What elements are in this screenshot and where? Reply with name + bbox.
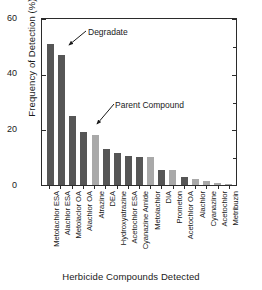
bar-slot [90, 19, 101, 185]
bar-slot [212, 19, 223, 185]
x-label-slot: Acetochlor ESA [123, 191, 134, 261]
x-tick-slot [55, 186, 66, 190]
x-tick-slot [190, 186, 201, 190]
x-label-slot: Cyanazine [201, 191, 212, 261]
x-tick-mark [229, 186, 230, 189]
x-label-slot: Cyanazine Amide [134, 191, 145, 261]
annotation-degradate-label: Degradate [88, 27, 128, 37]
bar-acetochlor-esa [125, 156, 132, 185]
bar-slot [101, 19, 112, 185]
bar-slot [201, 19, 212, 185]
x-label-slot: Hydroxyatrazine [111, 191, 122, 261]
bar-metolachlor-esa [47, 44, 54, 185]
bar-alachlor-oa [80, 132, 87, 185]
bar-cyanazine-amide [136, 157, 143, 185]
x-tick-slot [201, 186, 212, 190]
x-tick-mark [195, 186, 196, 189]
x-tick-mark [72, 186, 73, 189]
bar-acetochlor-oa [181, 177, 188, 185]
bar-metribuzin [225, 184, 232, 185]
x-tick-slot [44, 186, 55, 190]
x-label-slot: DIA [156, 191, 167, 261]
x-tick-mark [60, 186, 61, 189]
x-label-slot: Metribuzin [224, 191, 235, 261]
x-tick-slot [213, 186, 224, 190]
bar-slot [67, 19, 78, 185]
x-tick-mark [206, 186, 207, 189]
x-tick-mark [105, 186, 106, 189]
x-label-slot: Alachlor OA [78, 191, 89, 261]
x-label-slot: Acetochlor OA [179, 191, 190, 261]
x-tick-slot [145, 186, 156, 190]
bar-slot [190, 19, 201, 185]
bar-metolachlor [147, 157, 154, 185]
x-label-slot: Acetochlor [213, 191, 224, 261]
x-label-slot: Metolaclor OA [66, 191, 77, 261]
x-label-slot: Alachlor ESA [55, 191, 66, 261]
y-tick-label-20: 20 [0, 125, 17, 134]
bar-prometon [169, 170, 176, 185]
x-label-slot: Metolachlor [145, 191, 156, 261]
x-tick-slot [168, 186, 179, 190]
x-tick-slot [156, 186, 167, 190]
x-tick-slot [89, 186, 100, 190]
x-tick-mark [139, 186, 140, 189]
x-tick-mark [161, 186, 162, 189]
x-tick-mark [173, 186, 174, 189]
x-tick-slot [100, 186, 111, 190]
x-tick-row [41, 186, 237, 190]
bar-hydroxyatrazine [114, 153, 121, 185]
x-tick-slot [66, 186, 77, 190]
bar-slot [223, 19, 234, 185]
y-tick-label-0: 0 [0, 181, 17, 190]
bar-alachlor-esa [58, 55, 65, 185]
y-tick-label-60: 60 [0, 14, 17, 23]
bar-slot [56, 19, 67, 185]
x-label-slot: Prometon [168, 191, 179, 261]
x-tick-mark [49, 186, 50, 189]
x-label-slot: Alachlor [190, 191, 201, 261]
x-tick-mark [94, 186, 95, 189]
x-tick-mark [83, 186, 84, 189]
y-tick-label-40: 40 [0, 69, 17, 78]
x-axis-label: Metribuzin [232, 191, 240, 226]
bar-acetochlor [214, 183, 221, 185]
chart-figure: Frequency of Detection (%) 60 40 20 0 Me… [0, 0, 262, 290]
bar-cyanazine [203, 181, 210, 185]
x-tick-slot [179, 186, 190, 190]
x-label-slot: Metolachlor ESA [44, 191, 55, 261]
bar-atrazine [92, 135, 99, 185]
bar-dea [103, 149, 110, 185]
y-axis-title: Frequency of Detection (%) [26, 0, 37, 133]
x-tick-slot [123, 186, 134, 190]
x-tick-mark [150, 186, 151, 189]
x-tick-slot [111, 186, 122, 190]
x-tick-mark [184, 186, 185, 189]
x-axis-title: Herbicide Compounds Detected [0, 271, 262, 282]
x-tick-slot [134, 186, 145, 190]
bar-dia [158, 170, 165, 185]
x-label-slot: DEA [100, 191, 111, 261]
x-tick-slot [78, 186, 89, 190]
x-tick-mark [128, 186, 129, 189]
x-axis-labels: Metolachlor ESAAlachlor ESAMetolaclor OA… [41, 191, 237, 261]
x-tick-slot [224, 186, 235, 190]
annotation-parent-compound-label: Parent Compound [115, 100, 184, 110]
bar-slot [78, 19, 89, 185]
bar-alachlor [192, 179, 199, 185]
bar-metolaclor-oa [69, 116, 76, 185]
x-tick-mark [218, 186, 219, 189]
bar-slot [45, 19, 56, 185]
x-tick-mark [117, 186, 118, 189]
x-label-slot: Atrazine [89, 191, 100, 261]
